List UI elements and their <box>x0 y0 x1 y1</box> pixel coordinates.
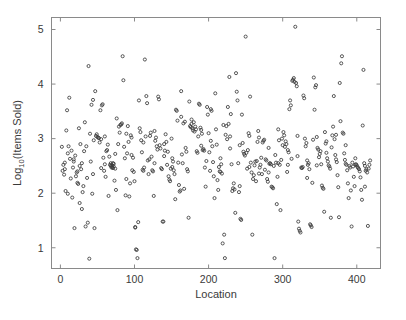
data-point <box>91 98 94 101</box>
data-point <box>211 161 214 164</box>
data-point <box>166 150 169 153</box>
data-point <box>323 131 326 134</box>
data-point <box>295 85 298 88</box>
data-point <box>91 192 94 195</box>
data-point <box>366 224 369 227</box>
data-point <box>114 188 117 191</box>
data-point <box>217 165 220 168</box>
data-point <box>84 225 87 228</box>
data-point <box>216 179 219 182</box>
data-point <box>206 105 209 108</box>
x-tick-label: 200 <box>200 273 218 285</box>
data-point <box>181 162 184 165</box>
data-point <box>146 102 149 105</box>
data-point <box>149 134 152 137</box>
data-point <box>236 99 239 102</box>
data-point <box>74 175 77 178</box>
data-point <box>124 194 127 197</box>
data-point <box>90 103 93 106</box>
data-point <box>277 128 280 131</box>
data-point <box>283 134 286 137</box>
data-point <box>142 141 145 144</box>
data-point <box>360 198 363 201</box>
data-point <box>267 171 270 174</box>
data-point <box>252 177 255 180</box>
data-point <box>352 175 355 178</box>
data-point <box>125 177 128 180</box>
data-point <box>346 182 349 185</box>
data-point <box>280 158 283 161</box>
data-point <box>174 198 177 201</box>
data-point <box>338 81 341 84</box>
x-tick-label: 300 <box>274 273 292 285</box>
data-point <box>211 145 214 148</box>
data-point <box>234 211 237 214</box>
data-point <box>89 160 92 163</box>
data-point <box>197 135 200 138</box>
data-point <box>303 137 306 140</box>
data-point <box>180 90 183 93</box>
x-axis-title: Location <box>195 288 237 300</box>
data-point <box>260 156 263 159</box>
data-point <box>152 194 155 197</box>
x-tick-label: 0 <box>57 273 63 285</box>
data-point <box>221 242 224 245</box>
data-point <box>323 210 326 213</box>
data-point <box>326 157 329 160</box>
data-point <box>180 153 183 156</box>
data-point <box>334 133 337 136</box>
data-point <box>273 257 276 260</box>
data-point <box>246 149 249 152</box>
data-point <box>306 159 309 162</box>
data-point <box>349 189 352 192</box>
data-point <box>337 186 340 189</box>
data-point <box>204 185 207 188</box>
data-point <box>240 113 243 116</box>
data-point <box>85 145 88 148</box>
y-axis-title: Log10(Items Sold) <box>11 100 26 186</box>
data-point <box>280 137 283 140</box>
data-point <box>249 161 252 164</box>
data-point <box>145 95 148 98</box>
data-point <box>73 227 76 230</box>
data-point <box>331 134 334 137</box>
data-point <box>229 147 232 150</box>
data-point <box>68 157 71 160</box>
data-point <box>257 136 260 139</box>
data-point <box>217 188 220 191</box>
data-point <box>172 169 175 172</box>
data-point <box>219 157 222 160</box>
data-point <box>140 151 143 154</box>
data-point <box>83 150 86 153</box>
data-point <box>185 150 188 153</box>
data-point <box>296 155 299 158</box>
data-point <box>143 58 146 61</box>
data-point <box>122 79 125 82</box>
data-point <box>333 138 336 141</box>
data-point <box>82 185 85 188</box>
data-point <box>223 233 226 236</box>
data-point <box>214 92 217 95</box>
data-point <box>208 151 211 154</box>
data-point <box>282 131 285 134</box>
data-point <box>320 163 323 166</box>
data-point <box>250 171 253 174</box>
y-tick-label: 2 <box>38 187 44 199</box>
data-point <box>304 145 307 148</box>
data-point <box>70 149 73 152</box>
data-point <box>159 147 162 150</box>
scatter-plot-figure: 0100200300400 12345 Location Log10(Items… <box>0 0 406 320</box>
data-point <box>121 55 124 58</box>
data-point <box>106 143 109 146</box>
data-point <box>362 68 365 71</box>
data-point <box>66 192 69 195</box>
data-point <box>128 195 131 198</box>
data-point <box>289 104 292 107</box>
data-point <box>127 140 130 143</box>
data-point <box>286 170 289 173</box>
data-point <box>288 108 291 111</box>
data-point <box>113 179 116 182</box>
data-point <box>163 155 166 158</box>
data-point <box>353 185 356 188</box>
data-point <box>229 135 232 138</box>
